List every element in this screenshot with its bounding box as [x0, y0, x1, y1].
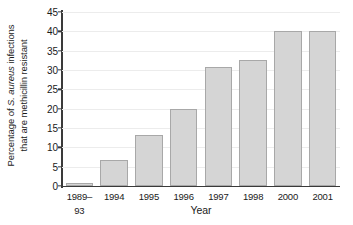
y-axis-title-species: S. aureus: [6, 66, 17, 106]
x-axis-tick-labels: 1989–931994199519961997199820002001: [62, 190, 340, 204]
y-axis-tick-label: 20: [36, 103, 58, 114]
bar-slot: [271, 12, 306, 186]
x-axis-tick-label: 1998: [236, 190, 271, 204]
x-axis-tick-label: 2001: [305, 190, 340, 204]
bar-slot: [201, 12, 236, 186]
bar-slot: [305, 12, 340, 186]
x-axis-tick-label: 1994: [97, 190, 132, 204]
y-axis-tick-label: 45: [36, 7, 58, 18]
bar-chart: Percentage of S. aureus infections that …: [0, 0, 353, 225]
bars-row: [62, 12, 340, 186]
y-axis-title-line-2: that are methicillin resistant: [18, 24, 31, 166]
y-axis-tick-label: 5: [36, 161, 58, 172]
y-axis-tick-label: 0: [36, 181, 58, 192]
x-axis-title: Year: [62, 204, 340, 216]
y-axis-title-line-1: Percentage of S. aureus infections: [6, 24, 19, 166]
plot-area: [62, 12, 340, 186]
axis-baseline: [62, 186, 340, 187]
bar: [205, 67, 232, 186]
bar: [66, 183, 93, 186]
bar-slot: [166, 12, 201, 186]
y-axis-tick-label: 40: [36, 26, 58, 37]
bar-slot: [236, 12, 271, 186]
y-axis-tick-label: 15: [36, 123, 58, 134]
x-axis-tick-label: 1989–93: [62, 190, 97, 204]
bars-layer: [62, 12, 340, 186]
x-axis-tick-label: 1995: [132, 190, 167, 204]
y-axis-tick-labels: 051015202530354045: [36, 12, 58, 186]
y-axis-title-suffix: infections: [6, 24, 17, 66]
bar: [309, 31, 336, 186]
bar: [274, 31, 301, 186]
bar-slot: [62, 12, 97, 186]
x-axis-tick-label: 1996: [166, 190, 201, 204]
bar: [239, 60, 266, 186]
y-axis-title: Percentage of S. aureus infections that …: [0, 0, 36, 190]
y-axis-tick-label: 25: [36, 84, 58, 95]
bar-slot: [132, 12, 167, 186]
y-axis-tick-label: 10: [36, 142, 58, 153]
bar-slot: [97, 12, 132, 186]
bar: [170, 109, 197, 186]
y-axis-tick-label: 30: [36, 65, 58, 76]
x-axis-tick-label: 1997: [201, 190, 236, 204]
y-axis-title-prefix: Percentage of: [6, 106, 17, 166]
y-axis-tick-label: 35: [36, 45, 58, 56]
bar: [135, 135, 162, 186]
x-axis-tick-label: 2000: [271, 190, 306, 204]
bar: [100, 160, 127, 186]
